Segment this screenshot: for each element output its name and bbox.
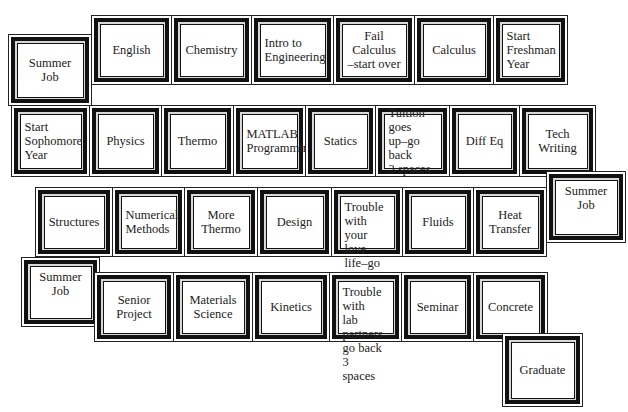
square-border: Kinetics	[255, 275, 327, 339]
square-border: Graduate	[505, 336, 580, 404]
board-square-senior-project: Senior Project	[94, 272, 174, 342]
square-label: Start Freshman Year	[502, 24, 560, 77]
square-border: Senior Project	[97, 275, 171, 339]
square-border: Seminar	[404, 275, 471, 339]
square-label: Heat Transfer	[482, 196, 539, 249]
board-square-materials-science: Materials Science	[173, 272, 253, 342]
square-label: Fail Calculus –start over	[342, 24, 407, 77]
board-square-tuition-goes-up: Tuition goes up–go back 3 spaces	[375, 105, 450, 177]
square-label: Kinetics	[261, 281, 322, 334]
square-border: Tech Writing	[522, 108, 593, 174]
square-border: Physics	[92, 108, 159, 174]
square-label: Numerical Methods	[121, 196, 177, 249]
square-label: Diff Eq	[458, 114, 512, 169]
board-square-trouble-lab-partners: Trouble with lab partners– go back 3 spa…	[329, 272, 402, 342]
square-label: Seminar	[410, 281, 466, 334]
square-label: Senior Project	[103, 281, 166, 334]
board-square-summer-job-1: Summer Job	[8, 34, 92, 106]
square-label: Calculus	[423, 24, 486, 77]
board-square-intro-to-engineering: Intro to Engineering	[251, 15, 334, 85]
square-border: Tuition goes up–go back 3 spaces	[378, 108, 447, 174]
square-border: Summer Job	[549, 174, 623, 240]
square-label: Concrete	[482, 281, 540, 334]
square-label: Chemistry	[180, 24, 244, 77]
square-label: English	[100, 24, 164, 77]
square-border: English	[94, 18, 169, 82]
square-border: Trouble with lab partners– go back 3 spa…	[332, 275, 399, 339]
board-square-graduate: Graduate	[502, 333, 583, 407]
square-border: Numerical Methods	[115, 190, 182, 254]
square-border: Statics	[308, 108, 373, 174]
square-label: Structures	[44, 196, 105, 249]
board-square-concrete: Concrete	[473, 272, 548, 342]
square-border: Summer Job	[11, 37, 89, 103]
board-square-chemistry: Chemistry	[171, 15, 252, 85]
board-square-english: English	[91, 15, 172, 85]
square-label: Summer Job	[30, 266, 92, 319]
board-square-start-freshman-year: Start Freshman Year	[493, 15, 568, 85]
square-label: Trouble with lab partners– go back 3 spa…	[338, 281, 394, 334]
board-square-matlab-programming: MATLAB Programming	[233, 105, 306, 177]
board-square-start-sophomore-year: Start Sophomore Year	[11, 105, 90, 177]
square-border: Fluids	[405, 190, 471, 254]
square-border: Chemistry	[174, 18, 249, 82]
board-square-more-thermo: More Thermo	[184, 187, 258, 257]
square-label: Fluids	[411, 196, 466, 249]
square-label: Summer Job	[555, 180, 618, 235]
square-border: Thermo	[164, 108, 231, 174]
square-border: Diff Eq	[452, 108, 517, 174]
square-label: Design	[266, 196, 324, 249]
board-square-heat-transfer: Heat Transfer	[473, 187, 547, 257]
board-square-fail-calculus: Fail Calculus –start over	[333, 15, 415, 85]
board-square-statics: Statics	[305, 105, 376, 177]
square-border: Concrete	[476, 275, 545, 339]
square-label: Statics	[314, 114, 368, 169]
board-square-thermo: Thermo	[161, 105, 234, 177]
square-label: Summer Job	[17, 43, 84, 98]
square-label: Tuition goes up–go back 3 spaces	[384, 114, 442, 169]
square-label: Graduate	[511, 342, 575, 399]
board-square-design: Design	[257, 187, 332, 257]
square-border: Start Freshman Year	[496, 18, 565, 82]
square-border: More Thermo	[187, 190, 255, 254]
square-border: Structures	[38, 190, 110, 254]
square-border: MATLAB Programming	[236, 108, 303, 174]
board-square-fluids: Fluids	[402, 187, 474, 257]
board-square-diff-eq: Diff Eq	[449, 105, 520, 177]
square-label: Start Sophomore Year	[20, 114, 82, 169]
board-square-calculus: Calculus	[414, 15, 494, 85]
square-border: Materials Science	[176, 275, 250, 339]
square-border: Calculus	[417, 18, 491, 82]
square-border: Design	[260, 190, 329, 254]
board-square-numerical-methods: Numerical Methods	[112, 187, 185, 257]
square-label: MATLAB Programming	[242, 114, 298, 169]
square-label: Trouble with your love life–go back 2 sp…	[340, 196, 395, 249]
board-square-kinetics: Kinetics	[252, 272, 330, 342]
square-label: Materials Science	[182, 281, 245, 334]
square-border: Summer Job	[24, 260, 97, 324]
square-label: More Thermo	[193, 196, 250, 249]
square-border: Intro to Engineering	[254, 18, 331, 82]
square-label: Intro to Engineering	[260, 24, 326, 77]
board-square-summer-job-3: Summer Job	[21, 257, 100, 327]
square-border: Trouble with your love life–go back 2 sp…	[334, 190, 400, 254]
board-square-tech-writing: Tech Writing	[519, 105, 596, 177]
square-border: Heat Transfer	[476, 190, 544, 254]
board-square-structures: Structures	[35, 187, 113, 257]
square-label: Thermo	[170, 114, 226, 169]
board-square-trouble-love-life: Trouble with your love life–go back 2 sp…	[331, 187, 403, 257]
square-label: Tech Writing	[528, 114, 588, 169]
board-square-seminar: Seminar	[401, 272, 474, 342]
board-square-summer-job-2: Summer Job	[546, 171, 626, 243]
square-label: Physics	[98, 114, 154, 169]
square-border: Start Sophomore Year	[14, 108, 87, 174]
board-square-physics: Physics	[89, 105, 162, 177]
square-border: Fail Calculus –start over	[336, 18, 412, 82]
